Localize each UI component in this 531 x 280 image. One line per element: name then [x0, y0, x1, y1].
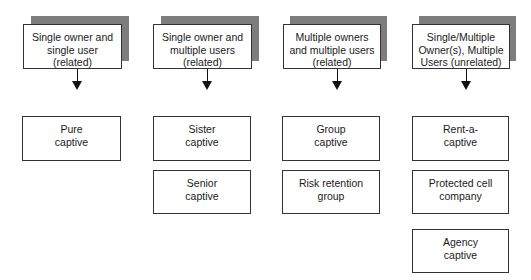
arrow-down-icon [202, 81, 212, 90]
leaf-box-sister-captive: Sister captive [153, 116, 251, 161]
header-label: Single owner and multiple users (related… [154, 31, 251, 69]
header-box-single-owner-single-user: Single owner and single user (related) [23, 24, 122, 69]
leaf-box-agency-captive: Agency captive [412, 229, 509, 273]
header-box-unrelated-owners-users: Single/Multiple Owner(s), Multiple Users… [412, 24, 510, 69]
leaf-box-protected-cell-company: Protected cell company [412, 170, 509, 214]
leaf-box-senior-captive: Senior captive [153, 170, 251, 214]
arrow-down-icon [461, 81, 471, 90]
leaf-label: Senior captive [154, 177, 250, 202]
header-box-single-owner-multiple-users: Single owner and multiple users (related… [153, 24, 252, 69]
leaf-label: Agency captive [413, 236, 508, 261]
leaf-label: Rent-a- captive [413, 123, 508, 148]
arrow-down-icon [332, 81, 342, 90]
leaf-label: Pure captive [23, 123, 120, 148]
leaf-label: Group captive [283, 123, 379, 148]
header-label: Multiple owners and multiple users (rela… [284, 31, 380, 69]
leaf-label: Protected cell company [413, 177, 508, 202]
header-box-multiple-owners-multiple-users: Multiple owners and multiple users (rela… [283, 24, 381, 69]
leaf-box-group-captive: Group captive [282, 116, 380, 161]
leaf-box-rent-a-captive: Rent-a- captive [412, 116, 509, 161]
arrow-down-icon [72, 81, 82, 90]
leaf-box-risk-retention-group: Risk retention group [282, 170, 380, 214]
header-label: Single/Multiple Owner(s), Multiple Users… [413, 31, 509, 69]
leaf-label: Sister captive [154, 123, 250, 148]
header-label: Single owner and single user (related) [24, 31, 121, 69]
leaf-label: Risk retention group [283, 177, 379, 202]
leaf-box-pure-captive: Pure captive [22, 116, 121, 161]
